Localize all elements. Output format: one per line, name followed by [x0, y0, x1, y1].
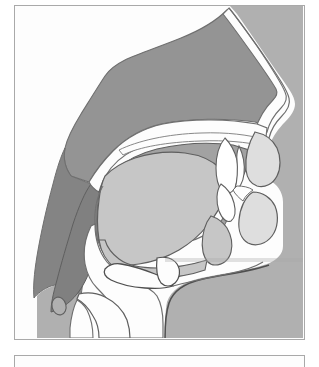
lower-lip: [239, 192, 278, 245]
scan-tone-band: [165, 258, 303, 262]
next-figure-frame: [14, 355, 305, 367]
figure-frame: Head soft tissue / facial profile Nasal …: [14, 5, 305, 340]
sagittal-vocal-tract-diagram: [15, 6, 303, 338]
